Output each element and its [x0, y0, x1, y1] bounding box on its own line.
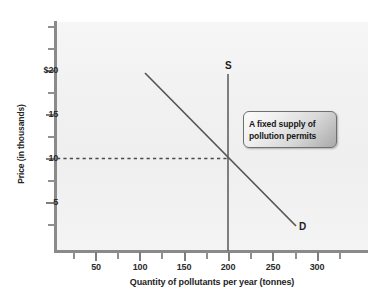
- x-axis-tick-label: 200: [208, 262, 248, 272]
- x-axis-tick-major: [95, 252, 97, 261]
- x-axis-tick-major: [228, 252, 230, 261]
- x-axis-tick-minor: [117, 252, 119, 259]
- x-axis-tick-label: 250: [253, 262, 293, 272]
- y-axis-title-text: Price (in thousands): [16, 84, 26, 204]
- x-axis-tick-major: [184, 252, 186, 261]
- y-axis-tick-minor: [48, 136, 55, 138]
- y-axis-title: Price (in thousands): [13, 84, 27, 204]
- x-axis-tick-label: 150: [164, 262, 204, 272]
- callout-line-1: A fixed supply of: [249, 118, 336, 130]
- x-axis-line: [54, 250, 368, 253]
- supply-curve-label: S: [225, 60, 232, 71]
- x-axis-tick-label: 300: [297, 262, 337, 272]
- y-axis-tick-minor: [48, 48, 55, 50]
- fixed-supply-callout: A fixed supply of pollution permits: [243, 111, 337, 148]
- x-axis-tick-minor: [206, 252, 208, 259]
- callout-line-2: pollution permits: [249, 130, 336, 142]
- x-axis-tick-minor: [161, 252, 163, 259]
- x-axis-tick-minor: [250, 252, 252, 259]
- y-axis-tick-label: $20: [18, 65, 58, 75]
- y-axis-tick-minor: [48, 224, 55, 226]
- x-axis-tick-minor: [73, 252, 75, 259]
- x-axis-tick-major: [139, 252, 141, 261]
- x-axis-tick-label: 50: [76, 262, 116, 272]
- chart-figure: $20 15 10 5 50 100 150 200 250 300 S D A…: [0, 0, 388, 299]
- y-axis-tick-minor: [48, 26, 55, 28]
- x-axis-tick-minor: [295, 252, 297, 259]
- x-axis-tick-minor: [339, 252, 341, 259]
- x-axis-tick-major: [272, 252, 274, 261]
- demand-curve-label: D: [299, 221, 306, 232]
- y-axis-tick-minor: [48, 180, 55, 182]
- y-axis-tick-minor: [48, 92, 55, 94]
- x-axis-title: Quantity of pollutants per year (tonnes): [56, 277, 368, 287]
- x-axis-tick-label: 100: [120, 262, 160, 272]
- fixed-supply-callout-text: A fixed supply of pollution permits: [244, 118, 336, 142]
- x-axis-tick-major: [317, 252, 319, 261]
